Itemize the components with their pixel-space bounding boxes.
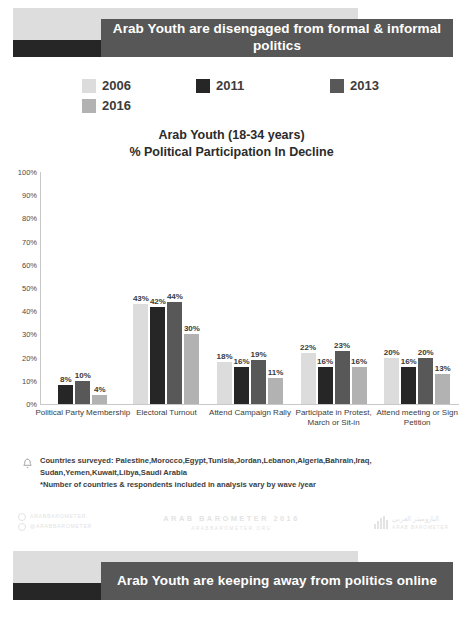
bar-2016[interactable] (184, 334, 199, 404)
bar-value-label: 4% (94, 385, 106, 394)
bar-2016[interactable] (352, 367, 367, 404)
bar-value-label: 23% (334, 341, 350, 350)
bar-group: 22%16%23%16%Participate in Protest, Marc… (292, 172, 376, 404)
bar-2016[interactable] (435, 374, 450, 404)
bar-column: 43% (133, 172, 148, 404)
bar-column: 19% (251, 172, 266, 404)
legend-label-2016: 2016 (102, 98, 131, 113)
bar-2011[interactable] (318, 367, 333, 404)
chart-legend: 2006 2011 2013 2016 (0, 76, 463, 118)
bar-2013[interactable] (335, 351, 350, 404)
bar-column: 10% (75, 172, 90, 404)
legend-swatch-2006 (82, 79, 96, 93)
bar-column: 20% (384, 172, 399, 404)
y-axis-tick: 40% (22, 307, 37, 316)
legend-swatch-2011 (196, 79, 210, 93)
bar-value-label: 19% (250, 350, 266, 359)
bar-column: 16% (318, 172, 333, 404)
footnote-line-2: Sudan,Yemen,Kuwait,Libya,Saudi Arabia (40, 467, 372, 479)
legend-item-2013[interactable]: 2013 (330, 78, 379, 93)
legend-item-2006[interactable]: 2006 (82, 78, 131, 93)
bar-column: 44% (167, 172, 182, 404)
bar-column: 18% (217, 172, 232, 404)
bar-value-label: 30% (184, 324, 200, 333)
bar-column: 16% (352, 172, 367, 404)
chart-title-line-2: % Political Participation In Decline (0, 144, 463, 161)
bar-value-label: 22% (300, 343, 316, 352)
bar-value-label: 20% (418, 348, 434, 357)
x-axis-category-label: Attend Campaign Rally (202, 408, 297, 418)
brand-logo-arabic: الباروميتر العربي (392, 514, 449, 524)
bar-column: 8% (58, 172, 73, 404)
y-axis-tick: 70% (22, 237, 37, 246)
brand-logo-english: ARAB BAROMETER (392, 524, 449, 531)
bar-2013[interactable] (418, 358, 433, 404)
bar-value-label: 20% (384, 348, 400, 357)
bar-group: 18%16%19%11%Attend Campaign Rally (208, 172, 292, 404)
top-banner-dark-block (13, 40, 105, 57)
bar-column: 30% (184, 172, 199, 404)
top-banner-text: Arab Youth are disengaged from formal & … (101, 21, 453, 55)
top-banner: Arab Youth are disengaged from formal & … (0, 0, 463, 74)
barometer-bars-icon (374, 516, 388, 529)
brand-logo: الباروميتر العربي ARAB BAROMETER (374, 514, 449, 532)
bar-group: 8%10%4%Political Party Membership (41, 172, 125, 404)
bar-2006[interactable] (384, 358, 399, 404)
bar-column: 20% (418, 172, 433, 404)
bar-2013[interactable] (251, 360, 266, 404)
bar-group: 20%16%20%13%Attend meeting or Sign Petit… (375, 172, 459, 404)
bar-column: 16% (401, 172, 416, 404)
x-axis-category-label: Political Party Membership (35, 408, 130, 418)
y-axis-tick: 10% (22, 376, 37, 385)
bar-2006[interactable] (301, 353, 316, 404)
bar-column: 11% (268, 172, 283, 404)
bottom-banner: Arab Youth are keeping away from politic… (0, 549, 463, 622)
x-axis-category-label: Participate in Protest, March or Sit-in (286, 408, 381, 428)
footnote-text: Countries surveyed: Palestine,Morocco,Eg… (40, 455, 372, 490)
legend-swatch-2013 (330, 79, 344, 93)
bar-2016[interactable] (92, 395, 107, 404)
footer-branding: ARABBAROMETER @ARABBAROMETER ARAB BAROME… (0, 512, 463, 542)
chart-title-line-1: Arab Youth (18-34 years) (0, 127, 463, 144)
bar-column: 23% (335, 172, 350, 404)
footnote-line-3: *Number of countries & respondents inclu… (40, 479, 372, 491)
bar-value-label: 10% (75, 371, 91, 380)
bar-2011[interactable] (150, 307, 165, 404)
bar-2013[interactable] (75, 381, 90, 404)
bar-column: 42% (150, 172, 165, 404)
bar-2011[interactable] (58, 385, 73, 404)
legend-item-2016[interactable]: 2016 (82, 98, 131, 113)
bottom-banner-bar: Arab Youth are keeping away from politic… (101, 562, 453, 600)
bar-2006[interactable] (133, 304, 148, 404)
bottom-banner-dark-block (13, 583, 105, 600)
bar-2006[interactable] (217, 362, 232, 404)
bottom-banner-text: Arab Youth are keeping away from politic… (117, 573, 437, 590)
bar-2016[interactable] (268, 378, 283, 404)
legend-swatch-2016 (82, 99, 96, 113)
bar-value-label: 43% (133, 294, 149, 303)
bar-column: 22% (301, 172, 316, 404)
bar-column: 13% (435, 172, 450, 404)
bar-chart: 100%90%80%70%60%50%40%30%20%10%0%8%10%4%… (0, 168, 463, 413)
bar-column: 16% (234, 172, 249, 404)
legend-label-2011: 2011 (216, 78, 244, 93)
bar-value-label: 16% (317, 357, 333, 366)
top-banner-bar: Arab Youth are disengaged from formal & … (101, 19, 453, 57)
x-axis-category-label: Electoral Turnout (119, 408, 214, 418)
y-axis-tick: 60% (22, 260, 37, 269)
bar-2011[interactable] (234, 367, 249, 404)
bar-value-label: 16% (233, 357, 249, 366)
legend-item-2011[interactable]: 2011 (196, 78, 244, 93)
bar-value-label: 42% (150, 297, 166, 306)
y-axis-tick: 30% (22, 330, 37, 339)
y-axis-tick: 80% (22, 214, 37, 223)
y-axis-tick: 100% (18, 168, 37, 177)
bar-value-label: 8% (60, 375, 72, 384)
bar-2013[interactable] (167, 302, 182, 404)
bar-2011[interactable] (401, 367, 416, 404)
footnote-line-1: Countries surveyed: Palestine,Morocco,Eg… (40, 455, 372, 467)
bar-value-label: 16% (401, 357, 417, 366)
footnote: Countries surveyed: Palestine,Morocco,Eg… (0, 455, 463, 490)
bell-icon (22, 456, 33, 490)
bar-value-label: 13% (435, 364, 451, 373)
